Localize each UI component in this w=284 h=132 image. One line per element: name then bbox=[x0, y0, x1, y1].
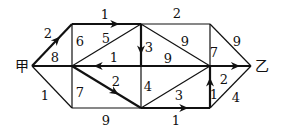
edge-weight: 4 bbox=[232, 90, 240, 105]
edge-weight: 2 bbox=[44, 26, 52, 41]
edge-weight: 1 bbox=[210, 87, 218, 102]
edge-weight: 2 bbox=[173, 6, 181, 21]
edge-weight: 2 bbox=[220, 72, 228, 87]
edge-weight: 5 bbox=[102, 31, 110, 46]
network-diagram: 2811675129342993171924 甲乙 bbox=[0, 0, 284, 132]
edge-weight: 2 bbox=[112, 74, 120, 89]
edge-weight: 7 bbox=[76, 85, 84, 100]
edge-weight: 3 bbox=[145, 40, 153, 55]
edge-weight: 4 bbox=[144, 79, 152, 94]
edge-weight: 9 bbox=[181, 34, 189, 49]
edge-weight: 9 bbox=[164, 51, 172, 66]
edge-weight: 1 bbox=[41, 88, 49, 103]
edge-weight: 1 bbox=[101, 7, 109, 22]
node-label-yi: 乙 bbox=[255, 58, 269, 74]
edge-weight: 8 bbox=[51, 50, 59, 65]
edges-group bbox=[32, 20, 251, 112]
edge-weight: 9 bbox=[102, 113, 110, 128]
edge-weight: 1 bbox=[110, 50, 118, 65]
edge-weight: 3 bbox=[175, 88, 183, 103]
network-svg: 2811675129342993171924 甲乙 bbox=[0, 0, 284, 132]
edge-weight: 6 bbox=[76, 34, 84, 49]
edge-jia-B bbox=[32, 66, 72, 108]
node-label-jia: 甲 bbox=[15, 58, 29, 74]
edge-weight: 7 bbox=[210, 45, 218, 60]
edge-weight: 1 bbox=[172, 113, 180, 128]
edge-weight: 9 bbox=[233, 34, 241, 49]
